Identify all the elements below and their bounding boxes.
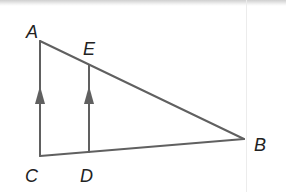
label-c: C xyxy=(25,166,39,186)
label-e: E xyxy=(83,39,96,59)
parallel-arrow-ed-icon xyxy=(84,86,94,104)
label-b: B xyxy=(254,135,266,155)
triangle-diagram: A E C D B xyxy=(0,0,286,192)
segment-cb xyxy=(40,139,244,156)
segment-ab xyxy=(40,41,244,139)
parallel-arrow-ac-icon xyxy=(35,86,45,104)
label-d: D xyxy=(80,166,93,186)
label-a: A xyxy=(25,22,38,42)
